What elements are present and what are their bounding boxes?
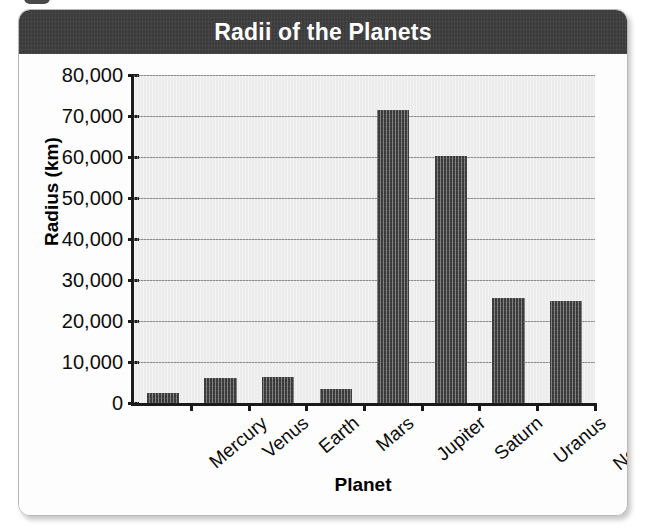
plot-area: 010,00020,00030,00040,00050,00060,00070,… — [131, 75, 595, 406]
bar-earth — [262, 377, 294, 403]
y-axis-tick — [128, 156, 139, 159]
bar-mercury — [147, 393, 179, 403]
chart-figure-card: Radii of the Planets and a time to Radii… — [18, 9, 628, 516]
x-axis-tick-label-saturn: Saturn — [490, 412, 547, 465]
y-axis-tick-label: 10,000 — [62, 351, 123, 374]
chart-title-bar: Radii of the Planets — [19, 10, 627, 54]
y-axis-tick — [128, 402, 139, 405]
chart-body: and a time to Radii of the . . . Radius … — [19, 54, 627, 515]
x-axis-tick — [305, 403, 308, 411]
x-axis-tick — [248, 403, 251, 411]
y-axis-tick-label: 0 — [112, 392, 123, 415]
x-axis-tick — [421, 403, 424, 411]
y-axis-tick-label: 50,000 — [62, 187, 123, 210]
y-axis-tick — [128, 197, 139, 200]
x-axis-tick-label-mars: Mars — [372, 412, 418, 456]
gridline — [134, 321, 595, 322]
y-axis-tick — [128, 279, 139, 282]
y-axis-tick-label: 80,000 — [62, 64, 123, 87]
gridline — [134, 280, 595, 281]
x-axis-tick-label-neptune: Neptune — [609, 412, 628, 475]
page-text-fragment — [24, 0, 50, 4]
gridline — [134, 116, 595, 117]
y-axis-tick — [128, 238, 139, 241]
gridline — [134, 239, 595, 240]
x-axis-tick — [594, 403, 597, 411]
y-axis-tick-label: 60,000 — [62, 146, 123, 169]
gridline — [134, 157, 595, 158]
x-axis-title: Planet — [131, 474, 595, 496]
x-axis-tick — [478, 403, 481, 411]
y-axis-tick-label: 30,000 — [62, 269, 123, 292]
x-axis-tick — [190, 403, 193, 411]
gridline — [134, 198, 595, 199]
x-axis-tick-label-earth: Earth — [315, 412, 364, 458]
bar-uranus — [492, 298, 524, 403]
x-axis-tick-label-jupiter: Jupiter — [433, 412, 491, 466]
y-axis-title: Radius (km) — [41, 137, 63, 246]
y-axis-tick-label: 70,000 — [62, 105, 123, 128]
bar-mars — [320, 389, 352, 403]
y-axis-tick-label: 20,000 — [62, 310, 123, 333]
x-axis-tick — [536, 403, 539, 411]
y-axis-tick — [128, 361, 139, 364]
x-axis-tick-label-venus: Venus — [259, 412, 314, 463]
bar-neptune — [550, 301, 582, 403]
bar-saturn — [435, 156, 467, 403]
x-axis-tick-label-uranus: Uranus — [549, 412, 610, 468]
y-axis-tick — [128, 115, 139, 118]
y-axis-tick — [128, 74, 139, 77]
chart-title: Radii of the Planets — [214, 19, 431, 46]
y-axis-tick-label: 40,000 — [62, 228, 123, 251]
gridline — [134, 362, 595, 363]
gridline — [134, 75, 595, 76]
bar-jupiter — [377, 110, 409, 403]
bar-venus — [204, 378, 236, 403]
y-axis-tick — [128, 320, 139, 323]
x-axis-tick — [363, 403, 366, 411]
